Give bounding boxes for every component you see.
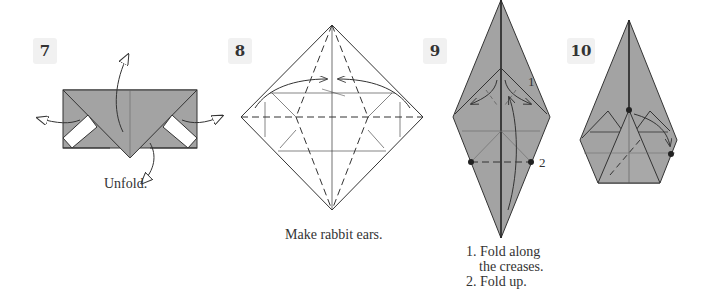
step-number-badge: 8 [228,38,252,64]
step-7-caption: Unfold. [104,175,147,192]
step-9-caption-line-3: 2. Fold up. [466,273,527,290]
step-7-figure [38,55,222,183]
origami-diagram: 1 2 [0,0,715,293]
step-number-badge: 7 [33,38,57,64]
step-number-badge: 10 [567,38,595,64]
step-9-figure: 1 2 [453,0,550,238]
step-8-figure [241,25,423,210]
step-number-badge: 9 [423,38,447,64]
fold-marker-2: 2 [539,155,546,170]
fold-marker-1: 1 [528,74,535,89]
step-8-caption: Make rabbit ears. [285,226,383,243]
